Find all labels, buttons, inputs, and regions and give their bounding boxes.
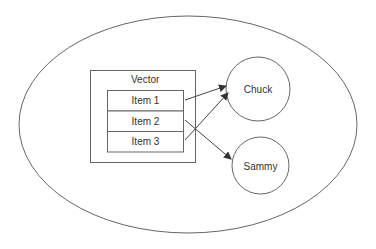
item-row-3: Item 3 <box>108 132 184 153</box>
vector-label: Vector <box>131 74 160 85</box>
item-label-3: Item 3 <box>132 136 160 147</box>
item-row-1: Item 1 <box>108 91 184 112</box>
diagram-canvas: Vector Item 1 Item 2 Item 3 Chuck Sammy <box>0 0 376 249</box>
node-sammy: Sammy <box>232 137 289 194</box>
item-row-2: Item 2 <box>108 111 184 132</box>
node-label-chuck: Chuck <box>244 84 273 95</box>
item-label-1: Item 1 <box>132 95 160 106</box>
node-chuck: Chuck <box>226 57 290 121</box>
node-label-sammy: Sammy <box>244 161 278 172</box>
item-label-2: Item 2 <box>132 116 160 127</box>
